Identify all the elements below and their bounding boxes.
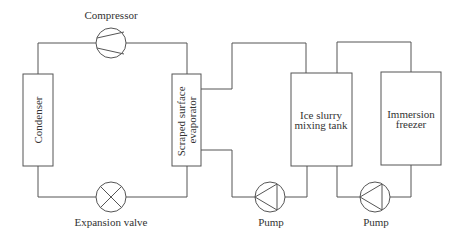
mixing-tank-label-line2: mixing tank [295,119,348,131]
pump-2: Pump [360,182,390,228]
condenser: Condenser [23,74,53,166]
pipe-condenser-valve [38,166,96,197]
compressor: Compressor [84,9,138,58]
pump-2-label: Pump [363,216,389,228]
immersion-freezer: Immersion freezer [381,72,441,165]
pipe-compressor-evaporator [126,43,187,74]
mixing-tank: Ice slurry mixing tank [291,73,352,166]
pipe-condenser-compressor [38,43,96,74]
pipe-pump1-tank [285,166,307,197]
pipe-evaporator-tank [201,43,306,89]
expansion-valve: Expansion valve [74,182,147,228]
pump-1: Pump [255,182,285,228]
pump-icon [255,182,285,212]
pipe-tank-pump2 [337,166,360,197]
pump-icon [360,182,390,212]
pipe-valve-evaporator [126,166,187,197]
pipe-pump2-freezer [390,165,411,197]
expansion-valve-label: Expansion valve [74,216,147,228]
pipe-evaporator-pump1 [201,150,255,197]
pump-1-label: Pump [258,216,284,228]
compressor-label: Compressor [84,9,138,21]
pipe-tank-freezer [337,42,411,73]
condenser-label: Condenser [32,96,44,143]
evaporator: Scraped surface evaporator [172,74,201,166]
diagram-canvas: Condenser Compressor Expansion valve Scr… [0,0,465,242]
immersion-freezer-label-line2: freezer [396,118,427,130]
evaporator-label-line2: evaporator [186,96,198,143]
refrigerant-loop [38,43,187,197]
